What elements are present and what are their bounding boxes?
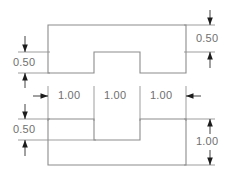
dim-text-bottom-right-100: 1.00 xyxy=(196,135,218,147)
arrowhead-up-bottom-left xyxy=(22,140,28,148)
arrowhead-left-chain-right xyxy=(186,93,194,99)
dimension-bottom-right-100: 1.00 xyxy=(196,119,218,165)
arrowhead-up-bottom-right xyxy=(207,119,213,127)
dim-text-top-left-050: 0.50 xyxy=(13,56,35,68)
dim-text-span-2-100: 1.00 xyxy=(104,89,126,101)
engineering-drawing: 0.50 0.50 xyxy=(0,0,238,179)
bottom-profile-outline xyxy=(48,119,186,165)
dim-text-span-3-100: 1.00 xyxy=(150,89,172,101)
arrowhead-up-top-right xyxy=(207,52,213,60)
arrowhead-down-bottom-right xyxy=(207,158,213,166)
dimension-bottom-horizontal-chain: 1.00 1.00 1.00 xyxy=(33,89,201,101)
dim-text-top-right-050: 0.50 xyxy=(196,32,218,44)
arrowhead-right-chain-left xyxy=(41,93,49,99)
cad-canvas: 0.50 0.50 xyxy=(0,0,238,179)
bottom-view-profile xyxy=(48,119,186,165)
dimension-top-left-050: 0.50 xyxy=(13,36,35,88)
arrowhead-down-top-right xyxy=(207,18,213,26)
dimension-top-right-050: 0.50 xyxy=(196,10,218,68)
arrowhead-down-bottom-left xyxy=(22,112,28,120)
top-profile-outline xyxy=(48,25,186,73)
dim-text-span-1-100: 1.00 xyxy=(58,89,80,101)
arrowhead-up-top-left xyxy=(22,73,28,81)
arrowhead-down-top-left xyxy=(22,45,28,53)
dimension-bottom-left-050: 0.50 xyxy=(13,104,35,156)
dim-text-bottom-left-050: 0.50 xyxy=(13,123,35,135)
top-view-profile xyxy=(48,25,186,73)
